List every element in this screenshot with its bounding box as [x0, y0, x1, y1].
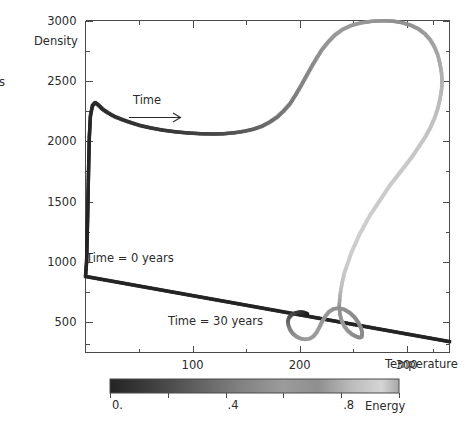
figure-canvas: s 30002500200015001000500 100200300 Dens…: [0, 0, 476, 435]
colorbar-tick-label: .8: [343, 398, 354, 412]
y-tick-label: 1000: [47, 255, 76, 269]
cropped-edge-glyph: s: [0, 75, 5, 89]
time-arrow-label: Time: [132, 93, 161, 107]
x-tick-label: 100: [182, 358, 204, 372]
colorbar-tick-label: 0.: [112, 398, 123, 412]
colorbar-label: Energy: [365, 399, 405, 413]
start-time-label: Time = 0 years: [85, 251, 174, 265]
y-tick-label: 2000: [47, 134, 76, 148]
y-tick-label: 500: [55, 315, 77, 329]
scientific-plot: s 30002500200015001000500 100200300 Dens…: [0, 0, 476, 435]
colorbar-gradient-bar[interactable]: [110, 379, 399, 393]
trajectory-endpoint-marker: [305, 312, 309, 316]
end-time-label: Time = 30 years: [167, 314, 263, 328]
y-tick-label: 2500: [47, 74, 76, 88]
x-tick-label: 200: [289, 358, 311, 372]
y-tick-label: 3000: [47, 14, 76, 28]
x-axis-label: Temperature: [384, 357, 458, 371]
colorbar-tick-label: .4: [228, 398, 239, 412]
y-tick-label: 1500: [47, 195, 76, 209]
y-axis-label: Density: [34, 34, 78, 48]
